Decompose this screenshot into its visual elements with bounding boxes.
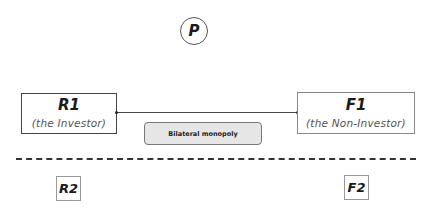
node-f2: F2	[344, 175, 369, 200]
node-r1-subtitle: (the Investor)	[32, 116, 106, 130]
node-p: P	[180, 17, 208, 45]
node-r2-title: R2	[59, 181, 78, 196]
node-f1-title: F1	[346, 97, 367, 114]
node-p-label: P	[189, 22, 200, 40]
r1-f1-connector	[116, 112, 298, 113]
node-f1: F1 (the Non-Investor)	[297, 92, 415, 134]
node-r2: R2	[56, 176, 81, 201]
bilateral-monopoly-label: Bilateral monopoly	[144, 122, 262, 145]
bilateral-monopoly-text: Bilateral monopoly	[168, 130, 237, 138]
node-f2-title: F2	[348, 180, 366, 195]
node-f1-subtitle: (the Non-Investor)	[306, 116, 406, 130]
node-r1-title: R1	[58, 97, 80, 114]
dashed-divider	[16, 158, 416, 160]
node-r1: R1 (the Investor)	[21, 93, 117, 134]
connector-endpoint-left	[115, 111, 118, 114]
